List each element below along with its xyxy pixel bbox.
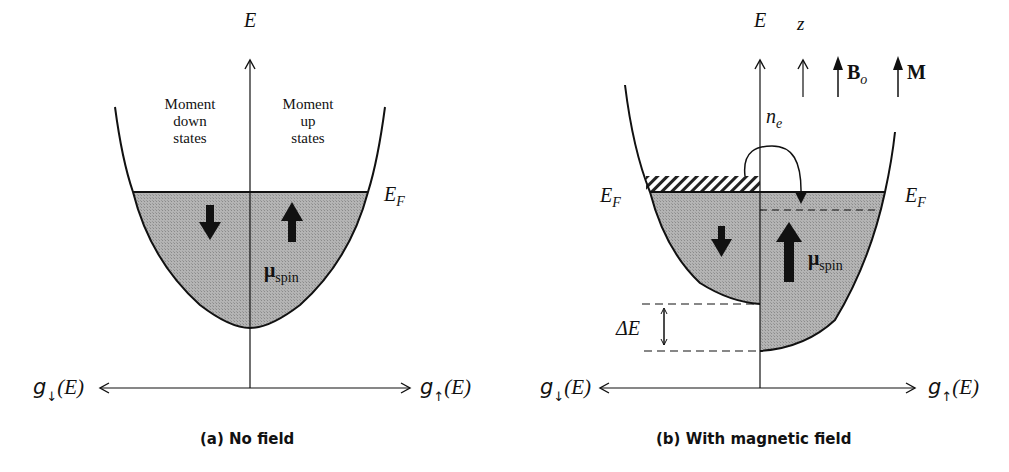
fermi-energy-label-right: EF <box>905 185 926 205</box>
transfer-count-label: ne <box>766 106 782 126</box>
panel-b <box>600 56 915 388</box>
g-symbol: g <box>540 375 553 399</box>
g-symbol: g <box>928 375 941 399</box>
g-up-label: g↑(E) <box>928 377 979 398</box>
fermi-sub: F <box>396 194 405 209</box>
g-symbol: g <box>420 375 433 399</box>
fermi-energy-label: EF <box>384 184 405 204</box>
g-argument: (E) <box>444 375 471 399</box>
region-label-line: up <box>270 113 346 130</box>
mu-symbol: μ <box>808 247 819 269</box>
down-subscript-icon: ↓ <box>46 389 57 404</box>
b-symbol: B <box>847 61 860 83</box>
g-up-label: g↑(E) <box>420 377 471 398</box>
down-subscript-icon: ↓ <box>553 389 564 404</box>
moment-up-label: Moment up states <box>270 96 346 147</box>
field-arrowhead-icon <box>833 56 843 70</box>
z-axis-label: z <box>797 14 804 33</box>
g-argument: (E) <box>952 375 979 399</box>
fermi-energy-label-left: EF <box>600 185 621 205</box>
g-argument: (E) <box>564 375 591 399</box>
fermi-sub: F <box>917 195 926 210</box>
fermi-main: E <box>905 184 917 206</box>
moment-down-label: Moment down states <box>152 96 228 147</box>
region-label-line: Moment <box>270 96 346 113</box>
magnetization-arrowhead-icon <box>893 56 903 70</box>
g-down-label: g↓(E) <box>540 377 591 398</box>
region-label-line: Moment <box>152 96 228 113</box>
mu-sub: spin <box>275 270 298 285</box>
spin-moment-label: μspin <box>264 260 299 280</box>
g-argument: (E) <box>57 375 84 399</box>
caption-a: (a) No field <box>200 430 294 448</box>
energy-axis-label: E <box>754 10 766 30</box>
spin-moment-label: μspin <box>808 248 843 268</box>
g-down-label: g↓(E) <box>33 377 84 398</box>
magnetization-label: M <box>907 62 926 82</box>
fermi-sub: F <box>612 195 621 210</box>
n-sub: e <box>776 116 782 131</box>
n-symbol: n <box>766 105 776 127</box>
mu-sub: spin <box>819 258 842 273</box>
up-subscript-icon: ↑ <box>941 389 952 404</box>
fermi-main: E <box>384 183 396 205</box>
depleted-states-hatch <box>646 176 760 192</box>
region-label-line: down <box>152 113 228 130</box>
up-subscript-icon: ↑ <box>433 389 444 404</box>
region-label-line: states <box>270 130 346 147</box>
region-label-line: states <box>152 130 228 147</box>
fermi-main: E <box>600 184 612 206</box>
mu-symbol: μ <box>264 259 275 281</box>
b-sub: o <box>860 72 867 87</box>
delta-e-label: ΔE <box>616 318 640 338</box>
panel-a <box>100 60 410 388</box>
field-label: Bo <box>847 62 867 82</box>
energy-axis-label: E <box>244 10 256 30</box>
caption-b: (b) With magnetic field <box>656 430 851 448</box>
g-symbol: g <box>33 375 46 399</box>
